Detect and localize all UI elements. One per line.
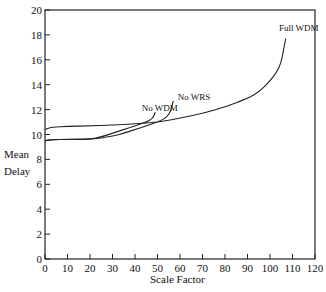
x-tick-label: 120 — [307, 262, 324, 274]
y-tick-label: 2 — [37, 228, 43, 240]
y-axis-label-line1: Mean — [4, 148, 29, 161]
curve-label: Full WDM — [279, 23, 319, 33]
y-tick-label: 6 — [37, 178, 43, 190]
y-tick-label: 16 — [31, 54, 43, 66]
series-line-full-wdm — [45, 39, 286, 130]
line-chart: 0246810121416182001020304050607080901001… — [0, 0, 326, 292]
x-tick-label: 30 — [107, 262, 119, 274]
y-tick-label: 18 — [31, 29, 43, 41]
x-tick-label: 90 — [242, 262, 254, 274]
x-axis-label: Scale Factor — [150, 273, 205, 285]
x-tick-label: 80 — [220, 262, 232, 274]
curve-label: No WDM — [142, 103, 178, 113]
y-tick-label: 4 — [37, 203, 43, 215]
y-tick-label: 10 — [31, 129, 43, 141]
y-axis-label-line2: Delay — [4, 165, 30, 178]
x-tick-label: 110 — [284, 262, 301, 274]
y-tick-label: 14 — [31, 79, 43, 91]
y-tick-label: 20 — [31, 4, 43, 16]
x-tick-label: 40 — [130, 262, 142, 274]
y-tick-label: 8 — [37, 153, 43, 165]
x-tick-label: 10 — [62, 262, 74, 274]
x-tick-label: 20 — [85, 262, 97, 274]
y-tick-label: 12 — [31, 104, 42, 116]
x-tick-label: 0 — [42, 262, 48, 274]
plot-frame — [45, 10, 315, 259]
x-tick-label: 100 — [262, 262, 279, 274]
curve-label: No WRS — [178, 92, 211, 102]
